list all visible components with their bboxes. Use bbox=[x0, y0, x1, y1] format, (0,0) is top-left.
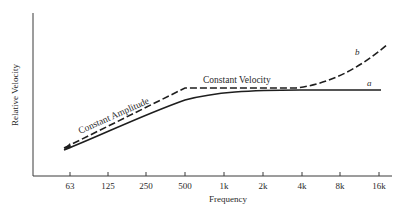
tick-label: 500 bbox=[178, 181, 192, 191]
tick-label: 16k bbox=[372, 181, 386, 191]
curve-b-label: b bbox=[355, 47, 360, 57]
arrowhead-icon bbox=[64, 143, 71, 149]
tick-label: 8k bbox=[336, 181, 346, 191]
constant-velocity-label: Constant Velocity bbox=[203, 75, 271, 85]
tick-label: 4k bbox=[298, 181, 308, 191]
x-ticks bbox=[70, 172, 379, 176]
velocity-frequency-chart: 63 125 250 500 1k 2k 4k 8k 16k Frequency… bbox=[0, 0, 401, 213]
tick-label: 250 bbox=[139, 181, 153, 191]
tick-label: 2k bbox=[259, 181, 269, 191]
tick-label: 63 bbox=[66, 181, 76, 191]
tick-label: 1k bbox=[220, 181, 230, 191]
x-axis-title: Frequency bbox=[209, 194, 247, 204]
x-tick-labels: 63 125 250 500 1k 2k 4k 8k 16k bbox=[66, 181, 387, 191]
curve-b-dashed bbox=[64, 44, 388, 148]
y-axis-title: Relative Velocity bbox=[10, 63, 20, 126]
curve-a-label: a bbox=[367, 78, 372, 88]
tick-label: 125 bbox=[101, 181, 115, 191]
